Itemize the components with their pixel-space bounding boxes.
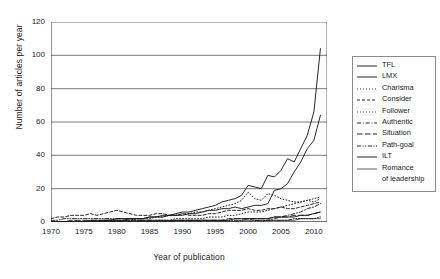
y-tick-label: 0 xyxy=(15,217,45,226)
legend-label: Authentic xyxy=(382,118,413,127)
line-chart-svg xyxy=(51,22,327,222)
legend-item: TFL xyxy=(357,61,432,70)
legend-item: Charisma xyxy=(357,84,432,93)
legend-item: Authentic xyxy=(357,118,432,127)
legend-label: Charisma xyxy=(382,84,414,93)
legend-line-swatch xyxy=(357,107,378,116)
legend-label: TFL xyxy=(382,61,395,70)
y-tick-label: 60 xyxy=(15,117,45,126)
legend-line-swatch xyxy=(357,175,378,184)
legend-line-swatch xyxy=(357,118,378,127)
legend-label: Path-goal xyxy=(382,141,414,150)
legend-line-swatch xyxy=(357,164,378,173)
x-axis-label: Year of publication xyxy=(51,252,327,262)
legend-line-swatch xyxy=(357,95,378,104)
legend-line-swatch xyxy=(357,129,378,138)
legend-label: Situation xyxy=(382,129,411,138)
chart-legend: TFLLMXCharismaConsiderFollowerAuthenticS… xyxy=(352,56,436,192)
legend-item: Consider xyxy=(357,95,432,104)
legend-label: of leadership xyxy=(382,175,424,184)
legend-item: of leadership xyxy=(357,175,432,184)
x-tick-label: 2010 xyxy=(294,227,334,236)
legend-item: ILT xyxy=(357,152,432,161)
legend-label: Consider xyxy=(382,95,412,104)
legend-item: Situation xyxy=(357,129,432,138)
y-tick-label: 120 xyxy=(15,17,45,26)
legend-label: Follower xyxy=(382,107,410,116)
y-tick-label: 100 xyxy=(15,50,45,59)
y-tick-label: 20 xyxy=(15,184,45,193)
legend-item: Follower xyxy=(357,107,432,116)
chart-root: Number of articles per year 020406080100… xyxy=(0,0,440,279)
legend-item: LMX xyxy=(357,72,432,81)
legend-line-swatch xyxy=(357,72,378,81)
plot-area xyxy=(51,22,327,222)
legend-line-swatch xyxy=(357,84,378,93)
legend-label: Romance xyxy=(382,164,414,173)
legend-label: ILT xyxy=(382,152,392,161)
y-tick-label: 80 xyxy=(15,84,45,93)
legend-item: Path-goal xyxy=(357,141,432,150)
legend-item: Romance xyxy=(357,164,432,173)
y-tick-label: 40 xyxy=(15,150,45,159)
legend-line-swatch xyxy=(357,61,378,70)
legend-line-swatch xyxy=(357,141,378,150)
legend-line-swatch xyxy=(357,152,378,161)
legend-label: LMX xyxy=(382,72,397,81)
